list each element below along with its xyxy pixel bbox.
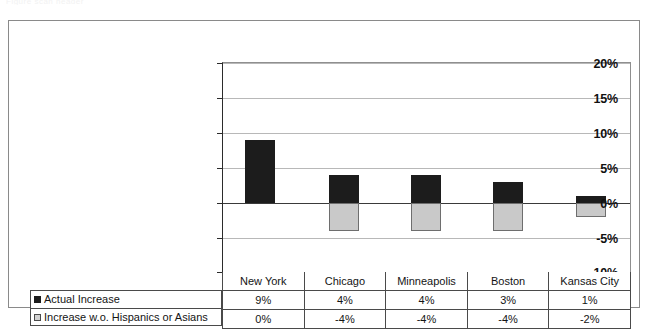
table-header-kansas-city: Kansas City [549, 272, 631, 291]
legend-item-actual-increase: Actual Increase [30, 290, 222, 308]
ytick-label-5: 5% [572, 163, 618, 176]
table-cell-actual-minneapolis: 4% [386, 291, 468, 310]
table-cell-actual-chicago: 4% [304, 291, 386, 310]
table-row-adjusted-increase: 0% -4% -4% -4% -2% [223, 310, 631, 329]
table-cell-adjusted-minneapolis: -4% [386, 310, 468, 329]
table-cell-adjusted-boston: -4% [467, 310, 549, 329]
table-cell-adjusted-chicago: -4% [304, 310, 386, 329]
scan-header-text: Figure scan header [6, 0, 306, 5]
bar-actual-chicago [329, 175, 359, 203]
bar-adjusted-minneapolis [411, 203, 441, 231]
table-cell-adjusted-kansas-city: -2% [549, 310, 631, 329]
ytick-label-0: 0% [572, 198, 618, 211]
bar-adjusted-chicago [329, 203, 359, 231]
table-row-actual-increase: 9% 4% 4% 3% 1% [223, 291, 631, 310]
ytick-label-20: 20% [572, 58, 618, 71]
bar-actual-boston [493, 182, 523, 203]
ytick-mark-10 [217, 133, 223, 134]
chart-legend: Actual Increase Increase w.o. Hispanics … [30, 290, 222, 326]
table-header-boston: Boston [467, 272, 549, 291]
figure-frame: 20% 15% 10% 5% 0% -5% -10% Actual Increa… [8, 20, 640, 308]
table-header-new-york: New York [223, 272, 305, 291]
legend-label-adjusted-increase: Increase w.o. Hispanics or Asians [44, 312, 208, 323]
ytick-label-10: 10% [572, 128, 618, 141]
table-row-categories: New York Chicago Minneapolis Boston Kans… [223, 272, 631, 291]
bar-adjusted-boston [493, 203, 523, 231]
ytick-mark-5 [217, 168, 223, 169]
table-cell-actual-kansas-city: 1% [549, 291, 631, 310]
table-cell-actual-new-york: 9% [223, 291, 305, 310]
table-header-minneapolis: Minneapolis [386, 272, 468, 291]
ytick-mark-20 [217, 63, 223, 64]
chart-data-table: New York Chicago Minneapolis Boston Kans… [222, 272, 631, 329]
table-cell-actual-boston: 3% [467, 291, 549, 310]
ytick-label-minus5: -5% [572, 233, 618, 246]
ytick-mark-0 [217, 203, 223, 204]
ytick-mark-15 [217, 98, 223, 99]
bar-actual-minneapolis [411, 175, 441, 203]
chart-plot-area: 20% 15% 10% 5% 0% -5% -10% [222, 62, 631, 272]
ytick-mark-minus5 [217, 238, 223, 239]
bar-actual-new-york [245, 140, 275, 203]
table-header-chicago: Chicago [304, 272, 386, 291]
legend-item-adjusted-increase: Increase w.o. Hispanics or Asians [30, 308, 222, 326]
ytick-label-15: 15% [572, 93, 618, 106]
table-cell-adjusted-new-york: 0% [223, 310, 305, 329]
bars-layer [223, 63, 630, 272]
legend-swatch-filled-square-icon [34, 296, 41, 303]
legend-swatch-hollow-square-icon [34, 314, 41, 321]
legend-label-actual-increase: Actual Increase [44, 294, 120, 305]
